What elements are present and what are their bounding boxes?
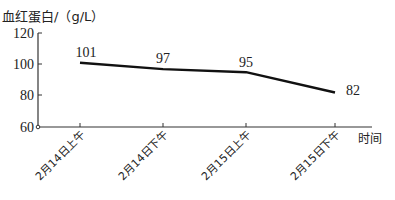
y-axis-label: 血红蛋白/（g/L） — [2, 9, 104, 24]
axis-origin — [36, 125, 40, 129]
data-label: 101 — [76, 45, 97, 60]
x-axis-label: 时间 — [358, 132, 382, 146]
x-tick-label: 2月15日下午 — [288, 128, 343, 183]
y-tick-label: 100 — [13, 57, 34, 72]
y-tick-label: 80 — [20, 88, 34, 103]
hemoglobin-series-line — [80, 63, 335, 93]
y-tick-label: 120 — [13, 26, 34, 41]
data-label: 82 — [346, 83, 360, 98]
data-label: 95 — [239, 55, 253, 70]
data-label: 97 — [156, 51, 170, 66]
hemoglobin-line-chart: 血红蛋白/（g/L） 120 100 80 60 2月14日上午 2月14日下午… — [0, 0, 395, 200]
x-tick-label: 2月14日上午 — [33, 128, 88, 183]
y-tick-label: 60 — [20, 120, 34, 135]
x-tick-label: 2月15日上午 — [199, 128, 254, 183]
x-tick-label: 2月14日下午 — [116, 128, 171, 183]
